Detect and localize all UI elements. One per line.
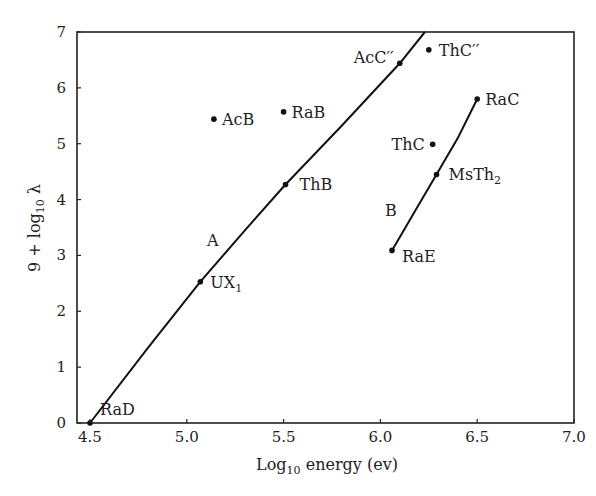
point-msth2 (434, 172, 440, 178)
curve-b-label: B (385, 201, 397, 220)
x-tick-label: 7.0 (562, 428, 586, 446)
point-label: AcB (221, 110, 254, 129)
point-rab (281, 109, 287, 115)
y-tick-label: 6 (56, 79, 66, 97)
x-tick-label: 5.5 (272, 428, 296, 446)
x-tick-label: 5.0 (175, 428, 199, 446)
y-tick-label: 1 (56, 358, 66, 376)
point-rac (474, 96, 480, 102)
point-label: RaC (485, 90, 519, 109)
point-acb (211, 116, 217, 122)
y-tick-label: 4 (56, 191, 66, 209)
chart: 4.55.05.56.06.57.0 01234567 RaDUX1ThBAcB… (0, 0, 596, 496)
x-tick-label: 6.5 (465, 428, 489, 446)
y-tick-label: 5 (56, 135, 66, 153)
point-label: ThC′′ (439, 41, 480, 60)
x-tick-label: 4.5 (78, 428, 102, 446)
y-tick-label: 3 (56, 246, 66, 264)
y-tick-label: 0 (56, 414, 66, 432)
point-label: AcC′′ (353, 48, 394, 67)
point-rae (389, 248, 395, 254)
point-ux1 (198, 279, 204, 285)
point-label: UX1 (210, 273, 242, 295)
point-label: RaD (100, 400, 135, 419)
y-tick-label: 7 (56, 23, 66, 41)
point-label: RaE (402, 247, 436, 266)
point-rad (87, 420, 93, 426)
y-axis-label: 9 + log10 λ (25, 184, 47, 272)
point-thc (430, 141, 436, 147)
point-thb (283, 182, 289, 188)
x-axis-label: Log10 energy (ev) (256, 455, 398, 477)
curve-a (90, 32, 425, 423)
point-label: MsTh2 (449, 165, 502, 187)
point-label: RaB (292, 103, 326, 122)
point-label: ThC (391, 135, 424, 154)
point-accpppp (397, 60, 403, 66)
y-tick-label: 2 (56, 302, 66, 320)
point-label: ThB (300, 175, 333, 194)
x-tick-label: 6.0 (368, 428, 392, 446)
data-points: RaDUX1ThBAcBRaBAcC′′ThC′′RaCThCMsTh2RaE (87, 41, 519, 426)
curve-a-label: A (206, 231, 219, 250)
point-thcpppp (426, 47, 432, 53)
curves (90, 32, 477, 423)
